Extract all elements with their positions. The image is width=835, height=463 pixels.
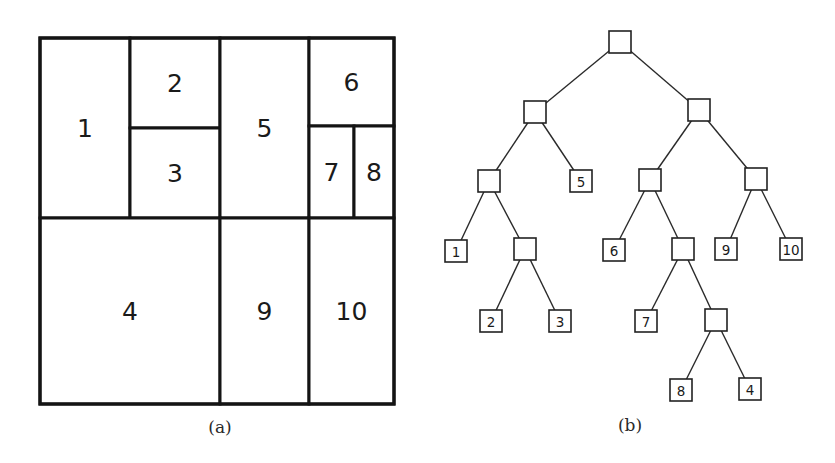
leaf-label: 6 (610, 243, 619, 259)
leaf-label: 3 (556, 314, 565, 330)
region-label: 10 (336, 297, 368, 326)
node-box (609, 31, 631, 53)
tree-internal-node (478, 170, 500, 192)
tree-leaf-2: 2 (480, 310, 502, 332)
node-box (524, 101, 546, 123)
region-label: 7 (324, 158, 340, 187)
tree-edge-root-L (535, 42, 620, 112)
region-label: 5 (257, 114, 273, 143)
figure: 12356784910 51691023784 (a) (b) (0, 0, 835, 463)
region-label: 2 (167, 69, 183, 98)
tree-internal-node (745, 168, 767, 190)
region-4: 4 (40, 218, 220, 404)
region-6: 6 (309, 38, 394, 126)
region-label: 1 (77, 114, 93, 143)
tree-leaf-6: 6 (603, 239, 625, 261)
region-9: 9 (220, 218, 309, 404)
tree-internal-node (688, 99, 710, 121)
region-10: 10 (309, 218, 394, 404)
tree-internal-node (514, 238, 536, 260)
region-label: 6 (344, 68, 360, 97)
tree-leaf-7: 7 (635, 310, 657, 332)
node-box (688, 99, 710, 121)
figure-canvas: 12356784910 51691023784 (0, 0, 835, 463)
region-1: 1 (40, 38, 130, 218)
caption-panel-b: (b) (618, 415, 642, 435)
tree-edge-root-R (620, 42, 699, 110)
leaf-label: 5 (577, 174, 586, 190)
leaf-label: 2 (487, 314, 496, 330)
panel-b-tree-edges (456, 42, 791, 390)
node-box (705, 309, 727, 331)
tree-internal-node (672, 238, 694, 260)
leaf-label: 7 (642, 314, 651, 330)
tree-leaf-1: 1 (445, 240, 467, 262)
region-label: 8 (366, 158, 382, 187)
tree-leaf-10: 10 (780, 238, 802, 260)
tree-internal-node (609, 31, 631, 53)
region-label: 3 (167, 159, 183, 188)
leaf-label: 1 (452, 244, 461, 260)
leaf-label: 4 (746, 382, 755, 398)
node-box (514, 238, 536, 260)
region-2: 2 (130, 38, 220, 128)
leaf-label: 8 (677, 383, 686, 399)
leaf-label: 9 (722, 242, 731, 258)
caption-panel-a: (a) (208, 417, 231, 437)
region-7: 7 (309, 126, 354, 218)
tree-internal-node (524, 101, 546, 123)
region-label: 9 (257, 297, 273, 326)
panel-b-tree-nodes: 51691023784 (445, 31, 802, 401)
node-box (478, 170, 500, 192)
tree-leaf-5: 5 (570, 170, 592, 192)
region-5: 5 (220, 38, 309, 218)
tree-leaf-9: 9 (715, 238, 737, 260)
tree-internal-node (639, 169, 661, 191)
leaf-label: 10 (782, 242, 799, 258)
region-8: 8 (354, 126, 394, 218)
node-box (672, 238, 694, 260)
tree-leaf-4: 4 (739, 378, 761, 400)
panel-a-partition: 12356784910 (40, 38, 394, 404)
node-box (745, 168, 767, 190)
region-label: 4 (122, 297, 138, 326)
node-box (639, 169, 661, 191)
tree-internal-node (705, 309, 727, 331)
tree-leaf-3: 3 (549, 310, 571, 332)
tree-leaf-8: 8 (670, 379, 692, 401)
region-3: 3 (130, 128, 220, 218)
